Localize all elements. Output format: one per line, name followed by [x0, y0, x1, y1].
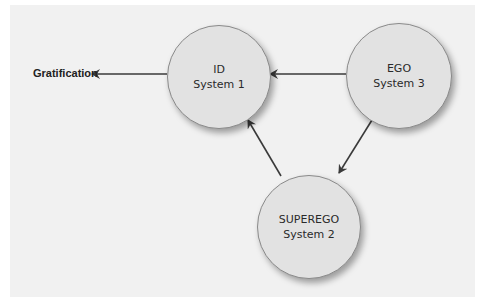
node-ego-subtitle: System 3 [373, 76, 425, 91]
arrow-ego-to-superego [339, 120, 372, 173]
node-superego-subtitle: System 2 [283, 227, 335, 242]
arrow-superego-to-id [248, 120, 281, 176]
node-ego-title: EGO [387, 61, 411, 76]
gratification-label: Gratification [33, 67, 98, 79]
node-id-subtitle: System 1 [193, 77, 245, 92]
node-ego: EGO System 3 [346, 23, 452, 129]
node-superego-title: SUPEREGO [279, 212, 339, 227]
node-id-title: ID [213, 62, 225, 77]
node-superego: SUPEREGO System 2 [257, 175, 361, 279]
node-id: ID System 1 [167, 25, 271, 129]
